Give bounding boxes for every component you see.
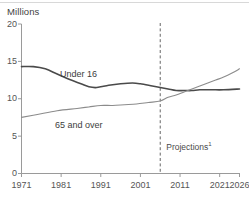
chart-plot-area <box>0 0 249 203</box>
x-axis-ticks <box>22 174 240 178</box>
projections-footnote-marker: 1 <box>208 141 211 147</box>
series-label-65-and-over: 65 and over <box>55 120 103 130</box>
projections-annotation: Projections1 <box>166 142 211 152</box>
y-axis-tick-label: 15 <box>1 56 17 66</box>
y-axis-tick-label: 0 <box>1 168 17 178</box>
series-line-under-16 <box>22 66 240 90</box>
projections-text: Projections <box>166 142 208 152</box>
x-axis-tick-label: 2011 <box>166 180 194 190</box>
x-axis-tick-label: 1991 <box>87 180 115 190</box>
series-label-under-16: Under 16 <box>60 69 97 79</box>
chart-container: Millions 20151050 1971198119912001201120… <box>0 0 249 203</box>
x-axis-tick-label: 1971 <box>8 180 36 190</box>
y-axis-tick-label: 5 <box>1 131 17 141</box>
series-line-65-and-over <box>22 69 240 118</box>
y-axis-tick-label: 20 <box>1 19 17 29</box>
x-axis-tick-label: 2001 <box>126 180 154 190</box>
data-series-group <box>22 66 240 117</box>
x-axis-tick-label: 2026 <box>226 180 250 190</box>
y-axis-ticks <box>18 24 22 174</box>
x-axis-tick-label: 1981 <box>47 180 75 190</box>
y-axis-tick-label: 10 <box>1 93 17 103</box>
